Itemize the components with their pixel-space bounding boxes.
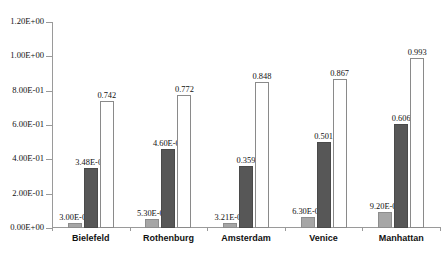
y-tick-label: 1.00E+00 <box>0 51 44 60</box>
bar-value-label: 0.501 <box>314 132 333 141</box>
bar-series-3-bielefeld <box>100 101 114 228</box>
bar-group: 5.30E-024.60E-010.772 <box>145 22 191 228</box>
x-tick <box>440 227 441 231</box>
bar-series-3-manhattan <box>410 58 424 228</box>
bar-value-label: 0.742 <box>97 91 116 100</box>
y-tick-label: 1.20E+00 <box>0 17 44 26</box>
bar-chart: 1.20E+001.00E+008.00E-016.00E-014.00E-01… <box>0 0 445 267</box>
category-label-rothenburg: Rothenburg <box>143 233 194 244</box>
bar-series-2-venice <box>317 142 331 228</box>
bar-series-1-manhattan <box>378 212 392 228</box>
category-label-bielefeld: Bielefeld <box>72 233 110 244</box>
bar-group: 3.21E-020.3590.848 <box>223 22 269 228</box>
bar-series-3-rothenburg <box>177 95 191 228</box>
bar-series-2-manhattan <box>394 124 408 228</box>
bar-value-label: 0.359 <box>237 156 256 165</box>
bar-group: 9.20E-020.6060.993 <box>378 22 424 228</box>
bar-value-label: 0.993 <box>408 48 427 57</box>
x-tick <box>285 227 286 231</box>
bar-series-3-amsterdam <box>255 82 269 228</box>
category-label-venice: Venice <box>309 233 338 244</box>
y-tick-label: 0.00E+00 <box>0 223 44 232</box>
x-tick <box>207 227 208 231</box>
category-label-amsterdam: Amsterdam <box>221 233 271 244</box>
x-tick <box>362 227 363 231</box>
bar-value-label: 0.772 <box>175 85 194 94</box>
bar-series-1-bielefeld <box>68 223 82 228</box>
bar-value-label: 0.867 <box>330 69 349 78</box>
bar-series-1-amsterdam <box>223 223 237 229</box>
y-tick-label: 6.00E-01 <box>0 120 44 129</box>
y-tick-label: 4.00E-01 <box>0 154 44 163</box>
bar-value-label: 0.848 <box>253 72 272 81</box>
category-label-manhattan: Manhattan <box>379 233 424 244</box>
bar-series-1-venice <box>301 217 315 228</box>
bar-group: 6.30E-020.5010.867 <box>301 22 347 228</box>
y-tick-label: 2.00E-01 <box>0 189 44 198</box>
bar-group: 3.00E-023.48E-010.742 <box>68 22 114 228</box>
plot-area: 3.00E-023.48E-010.7425.30E-024.60E-010.7… <box>52 22 440 228</box>
x-tick <box>130 227 131 231</box>
bar-series-3-venice <box>333 79 347 228</box>
bar-series-2-bielefeld <box>84 168 98 228</box>
bar-series-2-rothenburg <box>161 149 175 228</box>
y-tick-label: 8.00E-01 <box>0 86 44 95</box>
bar-value-label: 0.606 <box>392 114 411 123</box>
bar-series-2-amsterdam <box>239 166 253 228</box>
bar-series-1-rothenburg <box>145 219 159 228</box>
x-tick <box>52 227 53 231</box>
